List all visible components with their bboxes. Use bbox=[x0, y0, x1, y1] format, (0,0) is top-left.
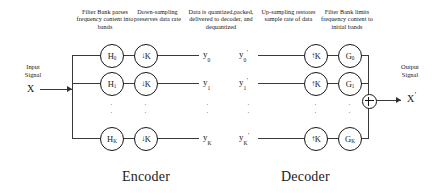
wire-bus-to-hk bbox=[72, 138, 100, 139]
annotation-filter-bank-analysis: Filter Bank parses frequency content int… bbox=[74, 8, 136, 30]
upsampler-k-label: ↑K bbox=[311, 135, 321, 144]
annotation-filter-bank-synthesis: Filter Bank limits frequency content to … bbox=[314, 8, 380, 30]
decoder-input-yk: yK' bbox=[239, 133, 249, 144]
analysis-filter-hk-label: HK bbox=[107, 135, 117, 144]
synthesis-filter-g1-label: G1 bbox=[346, 80, 355, 89]
synthesis-filter-g0-label: G0 bbox=[346, 52, 355, 61]
output-signal-line2: Signal bbox=[402, 71, 418, 78]
downsampler-0: ↓K bbox=[134, 44, 158, 68]
ellipsis-encoder-output-column: ·· bbox=[206, 102, 209, 117]
decoder-input-y0: y0' bbox=[239, 50, 248, 61]
downsampler-1-label: ↓K bbox=[141, 80, 151, 89]
upsampler-0-label: ↑K bbox=[311, 52, 321, 61]
input-signal-line1: Input bbox=[26, 63, 40, 70]
synthesis-filter-gk-label: GK bbox=[345, 135, 355, 144]
wire-yk-to-upk bbox=[258, 138, 304, 139]
analysis-filter-hk: HK bbox=[100, 127, 124, 151]
input-signal-label: Input Signal bbox=[13, 63, 53, 78]
analysis-filter-h0-label: H0 bbox=[108, 52, 117, 61]
wire-down1-to-y1 bbox=[156, 83, 199, 84]
output-signal-label: Output Signal bbox=[389, 63, 431, 78]
ellipsis-downsampler-column: ·· bbox=[144, 102, 147, 117]
adder-node bbox=[362, 94, 377, 109]
output-signal-symbol: X' bbox=[407, 94, 416, 104]
wire-bus-to-h0 bbox=[72, 55, 100, 56]
input-signal-symbol: X bbox=[27, 84, 34, 94]
encoder-section-title: Encoder bbox=[122, 170, 170, 184]
analysis-filter-h0: H0 bbox=[100, 44, 124, 68]
wire-y0-to-up0 bbox=[258, 55, 304, 56]
decoder-section-title: Decoder bbox=[281, 170, 330, 184]
synthesis-filter-gk: GK bbox=[338, 127, 362, 151]
annotation-quantization: Data is quantized,packed, delivered to d… bbox=[183, 8, 259, 30]
downsampler-1: ↓K bbox=[134, 72, 158, 96]
ellipsis-upsampler-column: ·· bbox=[314, 102, 317, 117]
upsampler-k: ↑K bbox=[304, 127, 328, 151]
downsampler-k: ↓K bbox=[134, 127, 158, 151]
encoder-output-y1: y1 bbox=[203, 78, 210, 89]
output-signal-line1: Output bbox=[401, 63, 419, 70]
ellipsis-h-column: ·· bbox=[110, 102, 113, 117]
synthesis-filter-g1: G1 bbox=[338, 72, 362, 96]
downsampler-k-label: ↓K bbox=[141, 135, 151, 144]
filter-bank-codec-diagram: Filter Bank parses frequency content int… bbox=[0, 0, 441, 195]
upsampler-1: ↑K bbox=[304, 72, 328, 96]
analysis-filter-h1: H1 bbox=[100, 72, 124, 96]
downsampler-0-label: ↓K bbox=[141, 52, 151, 61]
decoder-input-y1: y1' bbox=[239, 78, 248, 89]
ellipsis-decoder-input-column: ·· bbox=[247, 102, 250, 117]
wire-bus-to-h1 bbox=[72, 83, 100, 84]
wire-y1-to-up1 bbox=[258, 83, 304, 84]
annotation-upsampling: Up-sampling restores sample rate of data bbox=[261, 8, 316, 23]
upsampler-1-label: ↑K bbox=[311, 80, 321, 89]
encoder-output-yk: yK bbox=[203, 133, 212, 144]
output-arrowhead bbox=[396, 97, 401, 103]
annotation-downsampling: Down-sampling preserves data rate bbox=[130, 8, 185, 23]
input-arrowhead bbox=[67, 86, 72, 92]
analysis-bus bbox=[72, 55, 73, 138]
wire-down0-to-y0 bbox=[156, 55, 199, 56]
upsampler-0: ↑K bbox=[304, 44, 328, 68]
synthesis-filter-g0: G0 bbox=[338, 44, 362, 68]
analysis-filter-h1-label: H1 bbox=[108, 80, 117, 89]
encoder-output-y0: y0 bbox=[203, 50, 210, 61]
input-signal-line2: Signal bbox=[25, 71, 41, 78]
wire-downk-to-yk bbox=[156, 138, 199, 139]
ellipsis-g-column: ·· bbox=[348, 102, 351, 117]
